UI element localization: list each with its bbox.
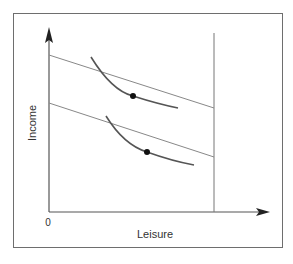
origin-label: 0: [45, 217, 51, 228]
upper-tangency-point: [130, 93, 136, 99]
lower-indifference-curve: [106, 116, 194, 165]
upper-budget-line: [49, 55, 214, 108]
indifference-diagram: Income Leisure 0: [0, 0, 293, 264]
y-axis-label: Income: [26, 105, 38, 141]
y-axis: [45, 27, 53, 212]
lower-tangency-point: [144, 149, 150, 155]
x-axis: [49, 208, 270, 216]
x-axis-label: Leisure: [137, 228, 173, 240]
lower-budget-line: [49, 103, 214, 157]
